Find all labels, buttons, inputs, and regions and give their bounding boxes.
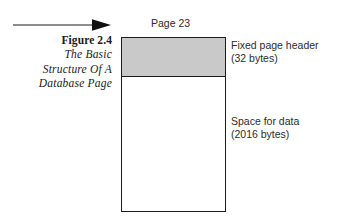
figure-canvas: Figure 2.4 The Basic Structure Of A Data… (0, 0, 338, 224)
annotation-data-size: (2016 bytes) (231, 128, 299, 141)
space-for-data-band (122, 77, 225, 211)
figure-number: Figure 2.4 (8, 33, 112, 47)
figure-title-line-2: Structure Of A (8, 62, 112, 77)
right-arrow-icon (12, 16, 114, 34)
annotation-header-label: Fixed page header (231, 39, 319, 52)
annotation-space-for-data: Space for data (2016 bytes) (231, 115, 299, 140)
figure-title-line-1: The Basic (8, 47, 112, 62)
annotation-fixed-page-header: Fixed page header (32 bytes) (231, 39, 319, 64)
fixed-page-header-band (122, 38, 225, 77)
page-title: Page 23 (151, 17, 190, 30)
figure-caption: Figure 2.4 The Basic Structure Of A Data… (8, 33, 112, 91)
figure-title-line-3: Database Page (8, 76, 112, 91)
annotation-header-size: (32 bytes) (231, 52, 319, 65)
database-page-rectangle (121, 37, 226, 212)
annotation-data-label: Space for data (231, 115, 299, 128)
